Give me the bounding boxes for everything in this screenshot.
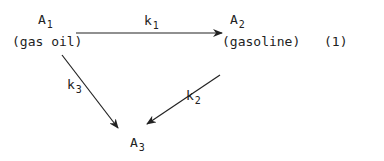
reaction-arrows — [0, 0, 384, 161]
equation-number: (1) — [324, 35, 347, 48]
node-a2-symbol: A2 — [230, 13, 245, 26]
rate-k3: k3 — [67, 78, 82, 91]
rate-k1: k1 — [144, 14, 159, 27]
node-a1-symbol: A1 — [38, 13, 53, 26]
arrow-a2-to-a3 — [147, 75, 220, 124]
node-a1-name: (gas oil) — [12, 35, 82, 48]
node-a2-name: (gasoline) — [222, 35, 300, 48]
node-a3-symbol: A3 — [130, 136, 145, 149]
rate-k2: k2 — [186, 89, 201, 102]
